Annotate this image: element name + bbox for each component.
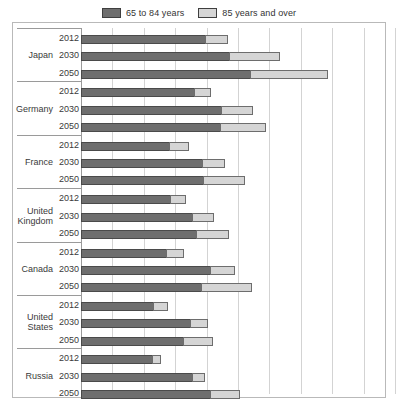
plot-area	[81, 28, 395, 394]
legend-entry-85-and-over: 85 years and over	[198, 8, 296, 18]
country-label-japan: Japan	[28, 50, 53, 60]
country-label-canada: Canada	[21, 264, 53, 274]
gridline	[238, 28, 239, 394]
country-label-france: France	[25, 157, 53, 167]
bar-segment-85-and-over	[220, 123, 266, 132]
bar-segment-65-to-84	[81, 176, 204, 185]
year-label: 2050	[59, 228, 79, 239]
bar-segment-65-to-84	[81, 283, 202, 292]
square-swatch-icon	[102, 8, 121, 18]
group-separator	[17, 348, 81, 349]
bar-segment-65-to-84	[81, 35, 206, 44]
bar-segment-85-and-over	[221, 106, 253, 115]
bar-segment-85-and-over	[203, 176, 245, 185]
year-label: 2030	[59, 104, 79, 115]
year-label: 2012	[59, 33, 79, 44]
group-separator	[17, 28, 81, 29]
bar-segment-85-and-over	[202, 159, 225, 168]
bar-segment-85-and-over	[201, 283, 252, 292]
bar-segment-65-to-84	[81, 70, 251, 79]
country-label-russia: Russia	[25, 371, 53, 381]
bar-segment-65-to-84	[81, 213, 193, 222]
bar-segment-65-to-84	[81, 88, 195, 97]
year-label: 2030	[59, 317, 79, 328]
year-label: 2050	[59, 121, 79, 132]
year-label: 2050	[59, 388, 79, 399]
gridline	[332, 28, 333, 394]
square-swatch-icon	[198, 8, 217, 18]
bar-segment-85-and-over	[250, 70, 328, 79]
bar-segment-65-to-84	[81, 195, 171, 204]
year-label: 2030	[59, 50, 79, 61]
year-label: 2012	[59, 247, 79, 258]
bar-segment-85-and-over	[190, 319, 209, 328]
year-label: 2050	[59, 281, 79, 292]
group-separator	[17, 242, 81, 243]
bar-segment-85-and-over	[170, 195, 187, 204]
year-label: 2050	[59, 174, 79, 185]
group-separator	[17, 188, 81, 189]
bar-segment-65-to-84	[81, 159, 203, 168]
country-label-germany: Germany	[16, 104, 53, 114]
gridline	[301, 28, 302, 394]
bar-segment-65-to-84	[81, 230, 197, 239]
bar-segment-65-to-84	[81, 373, 193, 382]
year-label: 2012	[59, 86, 79, 97]
group-separator	[17, 135, 81, 136]
bar-segment-85-and-over	[205, 35, 228, 44]
bar-segment-65-to-84	[81, 106, 222, 115]
bar-segment-65-to-84	[81, 337, 184, 346]
year-label: 2050	[59, 68, 79, 79]
country-label-united-states: United States	[27, 312, 53, 332]
year-label: 2012	[59, 140, 79, 151]
year-label: 2012	[59, 193, 79, 204]
bar-segment-85-and-over	[192, 213, 214, 222]
bar-segment-85-and-over	[192, 373, 205, 382]
country-label-united-kingdom: United Kingdom	[17, 206, 53, 226]
bar-segment-85-and-over	[210, 266, 235, 275]
year-label: 2030	[59, 211, 79, 222]
year-label: 2030	[59, 264, 79, 275]
bar-segment-65-to-84	[81, 390, 211, 399]
legend-entry-65-to-84: 65 to 84 years	[102, 8, 184, 18]
bar-segment-65-to-84	[81, 266, 211, 275]
year-label: 2050	[59, 335, 79, 346]
bar-segment-85-and-over	[166, 249, 184, 258]
gridline	[269, 28, 270, 394]
bar-segment-65-to-84	[81, 302, 154, 311]
bar-segment-65-to-84	[81, 123, 221, 132]
gridline	[364, 28, 365, 394]
bar-segment-85-and-over	[183, 337, 213, 346]
group-separator	[17, 295, 81, 296]
bar-segment-85-and-over	[153, 302, 168, 311]
bar-segment-85-and-over	[152, 355, 161, 364]
year-label: 2012	[59, 353, 79, 364]
population-age-structure-chart: 65 to 84 years 85 years and over 2012203…	[0, 0, 398, 405]
year-label: 2030	[59, 157, 79, 168]
legend-label-65-to-84: 65 to 84 years	[126, 8, 184, 18]
bar-segment-65-to-84	[81, 142, 170, 151]
bar-segment-85-and-over	[210, 390, 240, 399]
bar-segment-65-to-84	[81, 52, 230, 61]
bar-segment-65-to-84	[81, 249, 167, 258]
year-label: 2012	[59, 300, 79, 311]
legend-label-85-and-over: 85 years and over	[222, 8, 296, 18]
bar-segment-85-and-over	[229, 52, 280, 61]
bar-segment-85-and-over	[194, 88, 211, 97]
bar-segment-85-and-over	[169, 142, 189, 151]
bar-segment-85-and-over	[196, 230, 230, 239]
bar-segment-65-to-84	[81, 355, 153, 364]
gridline	[395, 28, 396, 394]
year-label: 2030	[59, 371, 79, 382]
category-axis-labels: 201220302050Japan201220302050Germany2012…	[13, 28, 81, 394]
bar-segment-65-to-84	[81, 319, 191, 328]
group-separator	[17, 81, 81, 82]
